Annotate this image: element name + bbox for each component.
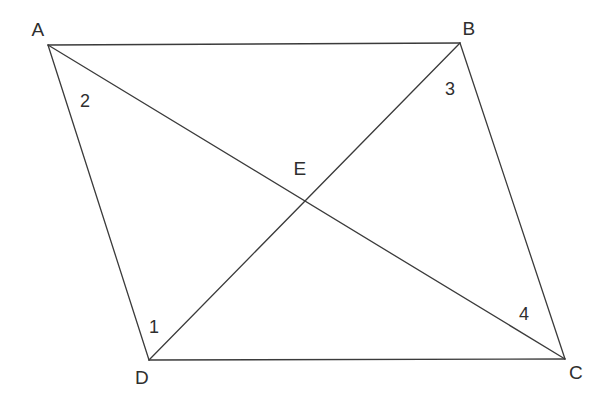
side-DA-line [48,45,149,360]
angle-label-4: 4 [519,305,529,323]
diagonal-AC-line [48,45,565,359]
diagonal-DB-line [149,43,460,360]
angle-label-1: 1 [149,318,159,336]
vertex-label-c: C [569,363,583,382]
angle-label-2: 2 [80,92,90,110]
geometry-figure: A B C D E 1 2 3 4 [0,0,606,396]
angle-label-3: 3 [445,80,455,98]
side-CD-line [149,359,565,360]
vertex-label-a: A [32,20,45,39]
diagram-canvas [0,0,606,396]
vertex-label-d: D [135,368,149,387]
side-BC-line [460,43,565,359]
vertex-label-b: B [463,19,476,38]
vertex-label-e: E [294,159,307,178]
side-AB-line [48,43,460,45]
